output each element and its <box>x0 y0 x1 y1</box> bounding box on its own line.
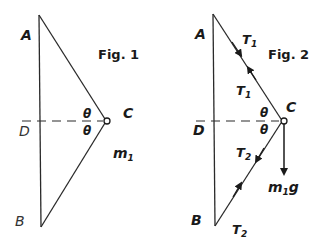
label-b: B <box>191 212 202 228</box>
figure-title: Fig. 1 <box>98 47 139 62</box>
figure-1: A Fig. 1 C θ θ D m1 B <box>15 15 139 229</box>
label-t1-upper: T1 <box>242 32 257 49</box>
label-b: B <box>15 213 25 229</box>
arrow-t1-up-icon <box>249 69 256 80</box>
label-weight: m1g <box>268 179 299 197</box>
mass-point <box>281 118 287 124</box>
diagram-canvas: A Fig. 1 C θ θ D m1 B A T1 Fig. 2 T1 C θ… <box>0 0 321 250</box>
label-t2-upper: T2 <box>236 145 251 162</box>
label-a: A <box>194 26 206 42</box>
label-d: D <box>193 122 205 138</box>
string-bc <box>41 123 105 227</box>
theta-bottom: θ <box>260 123 268 137</box>
label-c: C <box>123 105 134 121</box>
mass-point <box>104 118 110 124</box>
theta-top: θ <box>83 107 91 121</box>
theta-bottom: θ <box>83 124 91 138</box>
label-mass: m1 <box>113 145 134 163</box>
arrow-t1-down-icon <box>232 42 240 54</box>
string-bc <box>215 123 281 226</box>
figure-title: Fig. 2 <box>268 47 309 62</box>
label-t2-lower: T2 <box>232 222 247 239</box>
arrow-t2-up-icon <box>233 185 240 197</box>
string-ac <box>39 15 105 119</box>
label-t1-lower: T1 <box>236 83 251 100</box>
arrow-t2-down-icon <box>257 148 264 160</box>
label-c: C <box>286 99 297 115</box>
figure-2: A T1 Fig. 2 T1 C θ θ D T2 m1g B T2 <box>191 14 309 239</box>
string-ac <box>213 14 281 119</box>
vertical-pole <box>213 14 215 226</box>
theta-top: θ <box>260 106 268 120</box>
label-a: A <box>20 27 32 43</box>
label-d: D <box>19 123 30 139</box>
